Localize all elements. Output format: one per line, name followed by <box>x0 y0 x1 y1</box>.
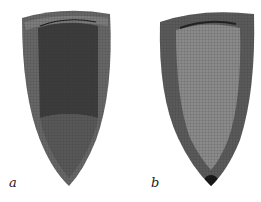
panel-label-a: a <box>9 176 17 189</box>
mesh-shape-a <box>0 0 130 202</box>
figure-panel-a: a <box>0 0 130 202</box>
panel-label-b: b <box>151 176 159 189</box>
figure-panel-b: b <box>130 0 261 202</box>
mesh-shape-b <box>130 0 261 202</box>
